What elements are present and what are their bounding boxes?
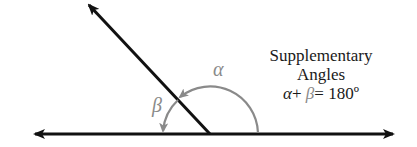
equation-plus: + [292, 84, 302, 103]
equation: α+ β= 180º [246, 84, 396, 103]
beta-arc-arrow [163, 100, 178, 131]
equation-equals-value: = 180º [314, 84, 359, 103]
alpha-label: α [213, 58, 224, 81]
angle-ray [89, 5, 210, 134]
equation-alpha: α [283, 84, 292, 103]
caption-line-2: Angles [246, 65, 396, 84]
beta-label: β [152, 94, 162, 117]
caption-line-1: Supplementary [246, 46, 396, 65]
caption: Supplementary Angles α+ β= 180º [246, 46, 396, 103]
